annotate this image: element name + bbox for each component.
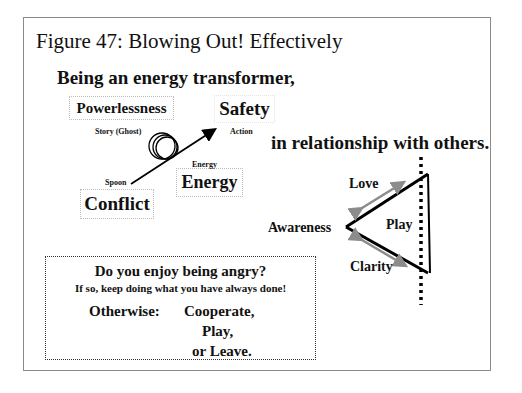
note-option-leave: or Leave. [192, 343, 252, 360]
note-otherwise-label: Otherwise: [89, 303, 160, 320]
label-play: Play [386, 217, 412, 233]
label-love: Love [349, 176, 379, 192]
note-option-play: Play, [202, 323, 233, 340]
note-option-cooperate: Cooperate, [184, 303, 254, 320]
coil-icon [149, 133, 178, 159]
note-question: Do you enjoy being angry? [46, 263, 315, 280]
label-clarity: Clarity [350, 259, 393, 275]
label-awareness: Awareness [268, 220, 331, 236]
note-subline: If so, keep doing what you have always d… [46, 282, 315, 294]
anger-note-box: Do you enjoy being angry? If so, keep do… [45, 256, 316, 360]
